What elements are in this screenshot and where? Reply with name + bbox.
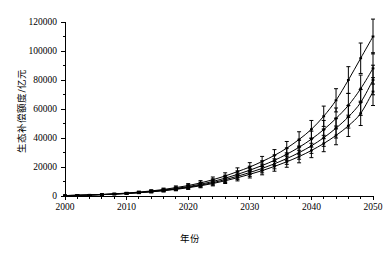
data-point-marker xyxy=(322,143,325,145)
data-point-marker xyxy=(211,183,214,185)
data-series-group xyxy=(63,19,375,196)
axes xyxy=(65,22,373,196)
data-point-marker xyxy=(261,170,264,172)
data-point-marker xyxy=(187,187,190,189)
x-tick-label: 2040 xyxy=(291,202,331,212)
data-series xyxy=(63,53,375,197)
y-tick-label: 100000 xyxy=(9,46,57,56)
data-series xyxy=(63,19,375,196)
x-tick-label: 2020 xyxy=(168,202,208,212)
data-point-marker xyxy=(224,180,227,182)
data-point-marker xyxy=(248,173,251,175)
y-tick-label: 60000 xyxy=(9,104,57,114)
data-point-marker xyxy=(150,191,153,193)
data-point-marker xyxy=(310,128,313,130)
data-point-marker xyxy=(359,112,362,114)
x-axis-label: 年份 xyxy=(0,231,380,245)
y-tick-label: 80000 xyxy=(9,75,57,85)
data-point-marker xyxy=(273,165,276,167)
data-series xyxy=(63,65,375,196)
data-point-marker xyxy=(285,161,288,163)
data-point-marker xyxy=(322,115,325,117)
x-tick-label: 2030 xyxy=(230,202,270,212)
data-point-marker xyxy=(174,188,177,190)
data-point-marker xyxy=(88,194,91,196)
data-point-marker xyxy=(335,134,338,136)
data-point-marker xyxy=(372,36,375,38)
x-tick-marks xyxy=(65,196,373,200)
series-line xyxy=(65,68,373,195)
data-point-marker xyxy=(335,99,338,101)
data-point-marker xyxy=(199,185,202,187)
x-tick-label: 2000 xyxy=(45,202,85,212)
y-tick-label: 0 xyxy=(9,191,57,201)
data-point-marker xyxy=(113,193,116,195)
series-line xyxy=(65,37,373,196)
data-point-marker xyxy=(101,194,104,196)
data-point-marker xyxy=(64,195,67,197)
y-tick-label: 40000 xyxy=(9,133,57,143)
data-point-marker xyxy=(372,91,375,93)
data-point-marker xyxy=(76,194,79,196)
y-tick-marks xyxy=(61,22,65,196)
data-point-marker xyxy=(298,156,301,158)
data-point-marker xyxy=(310,149,313,151)
y-tick-label: 120000 xyxy=(9,17,57,27)
data-point-marker xyxy=(359,57,362,59)
data-point-marker xyxy=(162,190,165,192)
data-point-marker xyxy=(236,177,239,179)
data-point-marker xyxy=(347,125,350,127)
data-point-marker xyxy=(347,79,350,81)
x-tick-label: 2010 xyxy=(107,202,147,212)
y-tick-label: 20000 xyxy=(9,162,57,172)
data-series xyxy=(63,78,375,197)
data-point-marker xyxy=(125,193,128,195)
data-point-marker xyxy=(138,192,141,194)
x-tick-label: 2050 xyxy=(353,202,387,212)
